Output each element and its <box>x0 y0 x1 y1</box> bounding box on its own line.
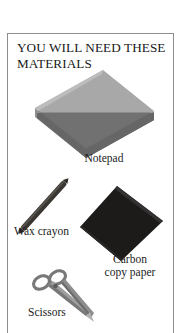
material-caption-carbon-copy-paper: Carbon copy paper <box>88 253 172 279</box>
material-caption-scissors: Scissors <box>28 306 98 319</box>
material-caption-notepad: Notepad <box>66 152 142 165</box>
material-caption-wax-crayon: Wax crayon <box>10 225 94 238</box>
page-title: YOU WILL NEED THESE MATERIALS <box>17 40 169 71</box>
notepad-icon <box>8 34 174 333</box>
carbon-copy-paper-icon <box>8 34 174 333</box>
materials-page-frame: YOU WILL NEED THESE MATERIALS <box>7 33 174 333</box>
scissors-icon <box>8 34 174 333</box>
wax-crayon-icon <box>8 34 174 333</box>
